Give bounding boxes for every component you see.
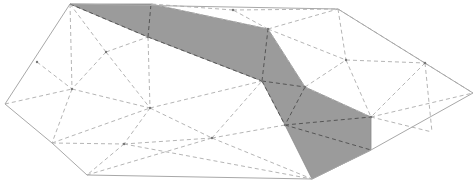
triangulation-edge — [212, 81, 262, 138]
triangulation-edge — [148, 37, 150, 108]
triangulation-edge — [268, 9, 338, 29]
triangulation-edge — [371, 117, 432, 132]
triangulation-edge — [305, 60, 346, 87]
triangulation-edge — [52, 108, 150, 143]
triangulation-edge — [52, 89, 72, 143]
triangulation-edge — [371, 63, 425, 117]
vertex-dot — [71, 88, 73, 90]
triangulation-edge — [150, 81, 262, 108]
triangulation-edge — [87, 144, 124, 175]
triangulation-edge — [37, 62, 72, 89]
triangulation-edge — [425, 63, 432, 132]
vertex-dot — [424, 62, 426, 64]
triangulation-diagram — [0, 0, 476, 183]
triangulation-edge — [338, 9, 346, 60]
vertex-dot — [147, 36, 149, 38]
triangulation-edge — [72, 89, 150, 108]
vertex-dot — [284, 124, 286, 126]
vertex-dot — [123, 143, 125, 145]
vertex-dot — [304, 86, 306, 88]
triangulation-edge — [346, 60, 425, 63]
vertex-dot — [105, 51, 107, 53]
vertex-dot — [345, 59, 347, 61]
triangulation-edge — [371, 93, 473, 117]
triangulation-edge — [124, 144, 312, 179]
triangulation-edge — [106, 37, 148, 52]
triangulation-edge — [52, 143, 124, 144]
triangulation-edge — [72, 52, 106, 89]
triangulation-edge — [212, 125, 285, 138]
triangulation-edge — [70, 4, 72, 89]
triangulation-edge — [106, 52, 150, 108]
triangulation-edge — [150, 108, 212, 138]
triangulation-edge — [124, 138, 212, 144]
vertex-dot — [232, 9, 234, 11]
vertex-dot — [149, 107, 151, 109]
vertex-dot — [370, 116, 372, 118]
vertex-dot — [211, 137, 213, 139]
vertex-dot — [36, 61, 38, 63]
vertex-dot — [267, 28, 269, 30]
vertex-dot — [261, 80, 263, 82]
triangulation-edge — [124, 108, 150, 144]
triangulation-edge — [5, 89, 72, 104]
